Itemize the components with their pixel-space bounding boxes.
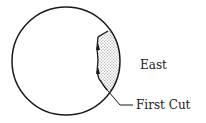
- first-cut-region: [97, 31, 140, 90]
- east-label: East: [140, 58, 167, 72]
- first-cut-label: First Cut: [136, 98, 190, 112]
